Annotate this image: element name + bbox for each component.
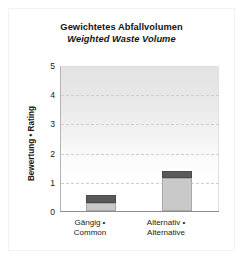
gridline-2	[61, 154, 219, 155]
plot-area	[60, 66, 219, 212]
y-tick-2: 2	[15, 149, 55, 159]
plot-right-border	[218, 66, 219, 211]
y-axis-ticks: 5 4 3 2 1 0	[12, 66, 55, 212]
x-tick-line2: Alternative	[131, 228, 201, 238]
x-tick-line1: Gängig •	[55, 218, 125, 228]
y-tick-4: 4	[15, 90, 55, 100]
gridline-4	[61, 95, 219, 96]
y-tick-1: 1	[15, 178, 55, 188]
x-tick-label-alternativ-alternative: Alternativ • Alternative	[131, 218, 201, 238]
chart-title-german: Gewichtetes Abfallvolumen	[0, 22, 243, 33]
chart-container: Gewichtetes Abfallvolumen Weighted Waste…	[0, 0, 243, 274]
x-tick-line2: Common	[55, 228, 125, 238]
bar-segment-upper	[86, 195, 116, 203]
y-tick-3: 3	[15, 119, 55, 129]
y-tick-5: 5	[15, 61, 55, 71]
bar-segment-upper	[162, 171, 192, 178]
y-tick-0: 0	[15, 207, 55, 217]
bar-segment-lower	[162, 178, 192, 211]
chart-title-block: Gewichtetes Abfallvolumen Weighted Waste…	[0, 22, 243, 45]
x-tick-label-gaengig-common: Gängig • Common	[55, 218, 125, 238]
plot-top-border	[61, 66, 219, 67]
bar-segment-lower	[86, 203, 116, 211]
chart-title-english: Weighted Waste Volume	[0, 34, 243, 45]
gridline-3	[61, 124, 219, 125]
gridline-1	[61, 183, 219, 184]
x-tick-line1: Alternativ •	[131, 218, 201, 228]
